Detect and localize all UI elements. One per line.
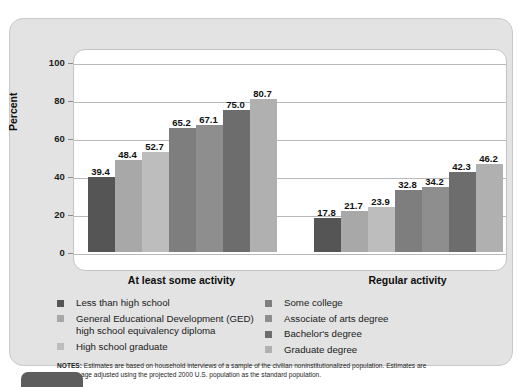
legend-swatch-icon [57, 343, 64, 350]
legend-swatch-icon [265, 331, 272, 338]
y-axis-label: Percent [7, 92, 19, 131]
y-tick-label: 0 [31, 247, 65, 258]
notes-block: NOTES: Estimates are based on household … [57, 361, 499, 380]
y-tick-label: 60 [31, 133, 65, 144]
bar [476, 164, 503, 252]
chart-figure: Percent 020406080100 39.448.452.765.267.… [0, 0, 530, 387]
legend-item: General Educational Development (GED) hi… [57, 313, 262, 338]
legend-swatch-icon [57, 315, 64, 322]
bar [314, 218, 341, 252]
legend-swatch-icon [265, 346, 272, 353]
legend-swatch-icon [265, 300, 272, 307]
legend-item-label: Bachelor's degree [284, 328, 362, 339]
bar [449, 172, 476, 252]
bar-value-label: 75.0 [218, 99, 253, 110]
legend-item: High school graduate [57, 341, 262, 354]
notes-line-2: age adjusted using the projected 2000 U.… [57, 370, 499, 379]
legend-item: Graduate degree [265, 344, 495, 357]
bar [142, 152, 169, 252]
legend-item: Less than high school [57, 297, 262, 310]
y-tick-label: 20 [31, 209, 65, 220]
bar [223, 110, 250, 253]
bar-value-label: 46.2 [471, 153, 506, 164]
legend-item-label: Less than high school [76, 297, 170, 308]
bar-value-label: 34.2 [417, 176, 452, 187]
bar [196, 125, 223, 252]
bar [368, 207, 395, 252]
group-label: At least some activity [57, 274, 306, 286]
bar-value-label: 39.4 [83, 166, 118, 177]
legend-item: Some college [265, 297, 495, 310]
bar-value-label: 23.9 [363, 196, 398, 207]
legend-swatch-icon [265, 315, 272, 322]
y-tick-label: 40 [31, 171, 65, 182]
legend-item: Bachelor's degree [265, 328, 495, 341]
bar [395, 190, 422, 252]
bar-value-label: 52.7 [137, 141, 172, 152]
bar [422, 187, 449, 252]
legend-item-label: General Educational Development (GED) hi… [76, 313, 254, 337]
legend-column-2: Some collegeAssociate of arts degreeBach… [265, 297, 495, 359]
group-label: Regular activity [283, 274, 530, 286]
bar-value-label: 80.7 [245, 88, 280, 99]
bar [169, 128, 196, 252]
legend-item-label: Associate of arts degree [284, 313, 388, 324]
notes-line-1: Estimates are based on household intervi… [84, 362, 427, 369]
legend-item-label: High school graduate [76, 341, 168, 352]
bar-value-label: 67.1 [191, 114, 226, 125]
bar [341, 211, 368, 252]
figure-card: Percent 020406080100 39.448.452.765.267.… [9, 18, 513, 366]
legend-item-label: Some college [284, 297, 343, 308]
legend-swatch-icon [57, 300, 64, 307]
y-tick-label: 100 [31, 57, 65, 68]
notes-heading: NOTES: [57, 362, 82, 369]
y-tick-label: 80 [31, 95, 65, 106]
legend-item-label: Graduate degree [284, 344, 357, 355]
legend-column-1: Less than high schoolGeneral Educational… [57, 297, 262, 356]
page-tab [21, 372, 83, 387]
bar [250, 99, 277, 252]
legend-item: Associate of arts degree [265, 313, 495, 326]
bar [88, 177, 115, 252]
bar [115, 160, 142, 252]
